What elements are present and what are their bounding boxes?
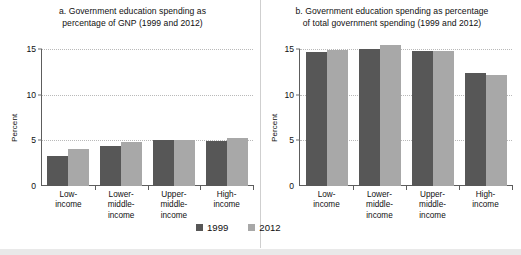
panel-a-group-upper-middle-income [148, 49, 201, 186]
panel-b-ytick-5: 5 [289, 135, 294, 145]
legend-swatch-2012-icon [248, 224, 255, 231]
panel-a-bar-1999-low-income [47, 156, 68, 186]
panel-a-title: a. Government education spending as perc… [0, 6, 261, 29]
panel-b-bar-2012-upper-middle-income [433, 51, 454, 186]
bottom-edge-band [0, 249, 521, 255]
legend-item-2012: 2012 [248, 222, 280, 233]
panel-b-title-line-1: b. Government education spending as perc… [275, 6, 509, 18]
panel-b-y-axis-label: Percent [270, 114, 279, 142]
panel-b-title-line-2: of total government spending (1999 and 2… [275, 18, 509, 30]
panel-a-y-axis-label: Percent [10, 114, 19, 142]
panel-a-title-line-2: percentage of GNP (1999 and 2012) [30, 18, 235, 30]
panel-b-group-low-income [300, 49, 353, 186]
panel-b-category-lower-middle-income: Lower- middle- income [353, 190, 406, 221]
panel-a-bar-1999-high-income [206, 141, 227, 186]
panel-b-group-lower-middle-income [353, 49, 406, 186]
panel-b-title: b. Government education spending as perc… [261, 6, 521, 29]
panel-a-bar-2012-low-income [68, 149, 89, 186]
panel-b-group-high-income [459, 49, 512, 186]
panel-b-bar-1999-low-income [306, 52, 327, 186]
legend-item-1999: 1999 [196, 222, 228, 233]
panel-b-bar-2012-lower-middle-income [380, 45, 401, 186]
panel-b-bar-2012-low-income [327, 50, 348, 186]
panel-a-bar-1999-lower-middle-income [100, 146, 121, 186]
panel-b-category-low-income: Low- income [300, 190, 353, 221]
panel-b-ytick-15: 15 [284, 44, 294, 54]
panel-a-plot-area: 15 10 5 0 [42, 49, 253, 186]
panel-a-bar-groups [42, 49, 253, 186]
panel-b-category-labels: Low- income Lower- middle- income Upper-… [300, 190, 512, 221]
panel-a-ytick-5: 5 [31, 135, 36, 145]
panel-b-bar-1999-upper-middle-income [412, 51, 433, 186]
panel-b-plot-area: 15 10 5 0 [300, 49, 512, 186]
panel-a-xtick-4 [253, 186, 254, 190]
panel-b-bar-1999-lower-middle-income [359, 49, 380, 186]
panel-b-bar-1999-high-income [465, 73, 486, 186]
chart-legend: 1999 2012 [196, 222, 281, 233]
panel-a-ytick-15: 15 [26, 44, 36, 54]
panel-a-bar-2012-high-income [227, 138, 248, 186]
panel-a-ytick-0: 0 [31, 181, 36, 191]
panel-a-title-line-1: a. Government education spending as [30, 6, 235, 18]
panel-b-ytick-10: 10 [284, 90, 294, 100]
panel-b-bar-groups [300, 49, 512, 186]
panel-a-category-lower-middle-income: Lower- middle- income [95, 190, 148, 221]
panel-b-group-upper-middle-income [406, 49, 459, 186]
panel-a-bar-2012-upper-middle-income [174, 140, 195, 186]
panel-a-category-upper-middle-income: Upper- middle- income [148, 190, 201, 221]
panel-a-group-high-income [200, 49, 253, 186]
panel-a-ytick-10: 10 [26, 90, 36, 100]
panel-divider [260, 0, 261, 248]
panel-a-group-low-income [42, 49, 95, 186]
panel-a-category-high-income: High- income [200, 190, 253, 221]
panel-a-group-lower-middle-income [95, 49, 148, 186]
panel-a-category-labels: Low- income Lower- middle- income Upper-… [42, 190, 253, 221]
panel-a-category-low-income: Low- income [42, 190, 95, 221]
panel-a-bar-2012-lower-middle-income [121, 142, 142, 186]
panel-a: a. Government education spending as perc… [0, 0, 261, 255]
panel-b-ytick-0: 0 [289, 181, 294, 191]
figure-two-panel-bar-charts: a. Government education spending as perc… [0, 0, 521, 255]
legend-swatch-1999-icon [196, 224, 203, 231]
panel-b-bar-2012-high-income [486, 75, 507, 186]
panel-a-bar-1999-upper-middle-income [153, 140, 174, 186]
panel-b-category-high-income: High- income [459, 190, 512, 221]
panel-b-xtick-4 [512, 186, 513, 190]
panel-b-category-upper-middle-income: Upper- middle- income [406, 190, 459, 221]
legend-label-1999: 1999 [207, 222, 228, 233]
legend-label-2012: 2012 [259, 222, 280, 233]
